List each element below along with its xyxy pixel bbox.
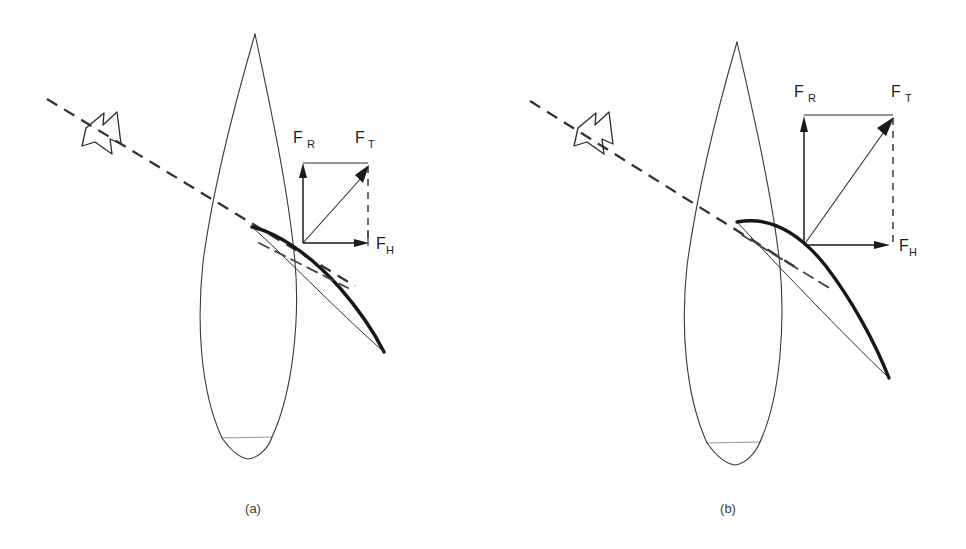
label-FT-subscript: T — [905, 92, 912, 104]
label-FR-subscript: R — [808, 92, 816, 104]
sail-force-diagram: F R F T F H (a) — [0, 0, 966, 549]
background — [0, 0, 966, 549]
label-FT-subscript: T — [368, 138, 375, 150]
label-FT: F — [891, 83, 901, 100]
label-FH-subscript: H — [386, 244, 394, 256]
label-FR-subscript: R — [307, 138, 315, 150]
panel-caption-a: (a) — [245, 501, 261, 516]
figure-canvas: F R F T F H (a) — [0, 0, 966, 549]
panel-caption-b: (b) — [720, 501, 736, 516]
label-FH: F — [376, 235, 386, 252]
label-FR: F — [293, 129, 303, 146]
label-FH: F — [899, 237, 909, 254]
label-FT: F — [355, 129, 365, 146]
label-FR: F — [794, 83, 804, 100]
label-FH-subscript: H — [909, 246, 917, 258]
